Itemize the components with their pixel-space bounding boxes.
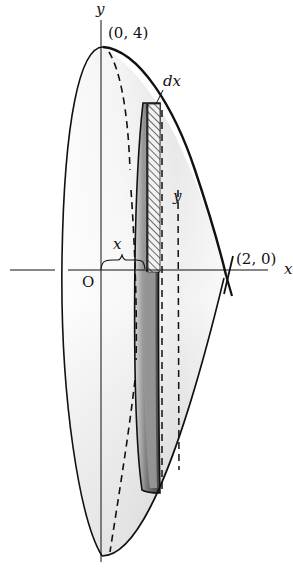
strip-height-label: y bbox=[173, 189, 181, 204]
dx-label: dx bbox=[163, 74, 181, 89]
point-label-top: (0, 4) bbox=[108, 26, 148, 41]
radius-label: x bbox=[113, 237, 121, 252]
point-label-right: (2, 0) bbox=[236, 252, 276, 267]
y-axis-label: y bbox=[96, 2, 104, 17]
solid-of-revolution-diagram: y (0, 4) dx y x (2, 0) x O bbox=[0, 0, 293, 571]
origin-label: O bbox=[82, 275, 94, 290]
hatched-strip bbox=[148, 104, 160, 272]
diagram-canvas bbox=[0, 0, 293, 571]
x-axis-label: x bbox=[284, 262, 292, 277]
